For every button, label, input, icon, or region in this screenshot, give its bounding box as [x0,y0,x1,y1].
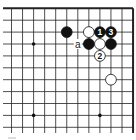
white-stone [95,39,106,50]
black-stone [61,27,72,38]
black-stone [83,39,94,50]
star-point [98,114,102,118]
white-stone [106,74,117,85]
star-point [32,114,36,118]
mark-label: a [75,39,81,50]
white-stone [83,27,94,38]
move-number: 1 [98,27,103,37]
go-board: a132 [0,0,136,140]
move-number: 2 [98,51,103,61]
star-point [32,42,36,46]
move-number: 3 [109,27,114,37]
black-stone [106,39,117,50]
